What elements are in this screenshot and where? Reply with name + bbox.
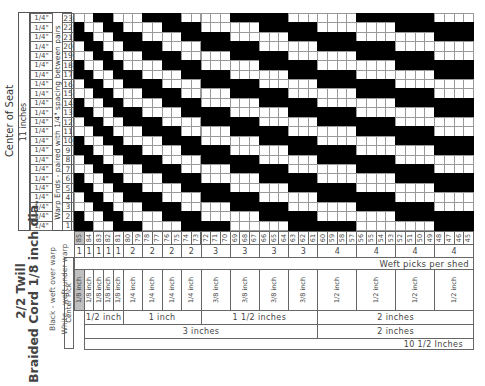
measurement-group-cell: 1 inch <box>123 310 202 325</box>
picks-per-shed-cell: 4 <box>395 244 435 258</box>
weft-picks-text: Weft picks per shed <box>380 259 469 269</box>
shed-width-text: 1/4 inch <box>129 277 137 303</box>
picks-per-shed-cell: 2 <box>142 244 162 258</box>
picks-per-shed-cell: 2 <box>181 244 201 258</box>
weft-number-text: 59 <box>328 234 336 242</box>
shed-width-text: 1/4 inch <box>187 277 195 303</box>
weft-number-text: 77 <box>153 234 161 242</box>
weft-number-text: 79 <box>134 234 142 242</box>
shed-width-text: 1/8 inch <box>105 277 113 303</box>
weft-number-text: 57 <box>348 234 356 242</box>
picks-per-shed-cell: 3 <box>288 244 318 258</box>
shed-width-text: 3/8 inch <box>241 277 249 303</box>
shed-width-text: 1/2 inch <box>411 277 419 303</box>
shed-width-cell: 1/4 inch <box>142 269 162 311</box>
legend-black: Black - weft over warp <box>48 234 58 344</box>
shed-width-text: 3/8 inch <box>299 277 307 303</box>
weave-cell <box>463 221 474 231</box>
shed-width-text: 1/8 inch <box>85 277 93 303</box>
weft-number-text: 47 <box>445 234 453 242</box>
legend-white: White - weft under warp <box>60 234 70 344</box>
weft-number-text: 51 <box>406 234 414 242</box>
shed-width-text: 1/4 inch <box>168 277 176 303</box>
weft-number-text: 49 <box>426 234 434 242</box>
shed-width-text: 3/8 inch <box>212 277 220 303</box>
weft-number-text: 53 <box>387 234 395 242</box>
total-width-cell: 10 1/2 Inches <box>84 338 474 350</box>
warp-row-number: 1 <box>62 221 74 231</box>
picks-per-shed-cell: 2 <box>162 244 182 258</box>
shed-width-cell: 3/8 inch <box>230 269 260 311</box>
weft-number-text: 52 <box>397 234 405 242</box>
weft-number-text: 84 <box>85 234 93 242</box>
picks-per-shed-cell: 3 <box>201 244 231 258</box>
shed-width-cell: 1/2 inch <box>356 269 396 311</box>
weft-number-text: 62 <box>299 234 307 242</box>
picks-per-shed-cell: 4 <box>317 244 357 258</box>
weft-number-text: 74 <box>182 234 190 242</box>
weft-number-text: 76 <box>163 234 171 242</box>
weft-number-text: 63 <box>289 234 297 242</box>
measurement-group-cell: 3 inches <box>84 324 319 339</box>
weft-number-text: 55 <box>367 234 375 242</box>
weft-number-text: 75 <box>173 234 181 242</box>
weft-number-text: 54 <box>377 234 385 242</box>
title-line2: Braided Cord 1/8 inch dia. <box>26 197 41 386</box>
weft-number-cell: 45 <box>463 231 474 245</box>
measurement-group-cell: 1 1/2 inches <box>201 310 319 325</box>
shed-width-text: 1/2 inch <box>372 277 380 303</box>
shed-width-text: 1/8 inch <box>114 277 122 303</box>
shed-width-text: 3/8 inch <box>270 277 278 303</box>
weft-number-text: 69 <box>231 234 239 242</box>
measurement-group-cell: 2 inches <box>317 324 474 339</box>
weft-number-text: 68 <box>241 234 249 242</box>
weft-number-text: 72 <box>202 234 210 242</box>
shed-width-text: 1/4 inch <box>148 277 156 303</box>
shed-width-cell: 1/2 inch <box>317 269 357 311</box>
shed-width-cell: 1/4 inch <box>123 269 143 311</box>
weft-number-text: 58 <box>338 234 346 242</box>
weft-number-text: 73 <box>192 234 200 242</box>
shed-width-text: 1/2 inch <box>333 277 341 303</box>
weft-number-text: 71 <box>212 234 220 242</box>
shed-width-cell: 1/4 inch <box>181 269 201 311</box>
center-of-seat-label: Center of Seat <box>4 51 16 191</box>
weft-number-text: 81 <box>114 234 122 242</box>
picks-per-shed-cell: 4 <box>434 244 474 258</box>
shed-width-text: 1/8 inch <box>95 277 103 303</box>
weft-number-text: 46 <box>455 234 463 242</box>
weft-number-text: 66 <box>260 234 268 242</box>
weft-number-text: 45 <box>465 234 473 242</box>
measurement-group-cell: 1/2 inch <box>84 310 124 325</box>
shed-width-cell: 1/4 inch <box>162 269 182 311</box>
shed-width-text: 1/8 inch <box>75 277 83 303</box>
weft-number-text: 65 <box>270 234 278 242</box>
shed-width-cell: 1/2 inch <box>434 269 474 311</box>
weft-number-text: 64 <box>280 234 288 242</box>
weft-number-text: 82 <box>105 234 113 242</box>
shed-width-cell: 3/8 inch <box>259 269 289 311</box>
weft-number-text: 48 <box>435 234 443 242</box>
shed-width-cell: 3/8 inch <box>201 269 231 311</box>
picks-per-shed-cell: 3 <box>230 244 260 258</box>
weft-number-text: 85 <box>75 234 83 242</box>
measurement-group-cell: 2 inches <box>317 310 474 325</box>
weft-number-text: 61 <box>309 234 317 242</box>
shed-width-text: 1/2 inch <box>450 277 458 303</box>
picks-per-shed-cell: 2 <box>123 244 143 258</box>
weft-number-text: 70 <box>221 234 229 242</box>
weft-number-text: 56 <box>358 234 366 242</box>
picks-per-shed-cell: 3 <box>259 244 289 258</box>
weft-number-text: 60 <box>319 234 327 242</box>
weft-number-text: 83 <box>95 234 103 242</box>
weft-number-text: 67 <box>251 234 259 242</box>
picks-per-shed-cell: 4 <box>356 244 396 258</box>
shed-width-cell: 3/8 inch <box>288 269 318 311</box>
weft-number-text: 80 <box>124 234 132 242</box>
weft-number-text: 78 <box>143 234 151 242</box>
shed-width-cell: 1/2 inch <box>395 269 435 311</box>
weft-number-text: 50 <box>416 234 424 242</box>
